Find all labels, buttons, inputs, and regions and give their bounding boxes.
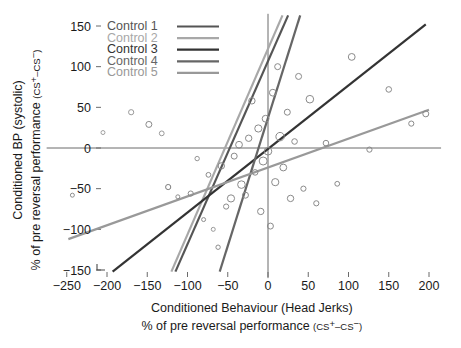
data-point xyxy=(224,204,229,209)
data-point xyxy=(146,121,152,127)
data-point xyxy=(166,184,171,189)
x-tick-label: −50 xyxy=(217,279,238,293)
x-tick-label: −150 xyxy=(133,279,161,293)
scatter-plot-canvas: −250−200−150−100−50050100150200−150−100−… xyxy=(0,0,461,348)
data-point xyxy=(227,195,234,202)
data-point xyxy=(195,156,199,160)
data-point xyxy=(348,54,355,61)
data-point xyxy=(386,87,392,93)
x-tick-label: 100 xyxy=(338,279,359,293)
data-point xyxy=(211,227,215,231)
x-axis-title: Conditioned Behaviour (Head Jerks) xyxy=(151,301,353,315)
legend-layer: Control 1Control 2Control 3Control 4Cont… xyxy=(107,19,219,79)
chart-figure: −250−200−150−100−50050100150200−150−100−… xyxy=(0,0,461,348)
data-point xyxy=(409,121,414,126)
data-point xyxy=(202,218,206,222)
data-point xyxy=(238,181,246,189)
data-point xyxy=(284,109,290,115)
data-point xyxy=(101,131,105,135)
data-point xyxy=(323,140,329,146)
data-point xyxy=(272,179,279,186)
data-point xyxy=(306,95,314,103)
data-point xyxy=(296,73,302,79)
data-point xyxy=(255,125,262,132)
x-tick-label: 0 xyxy=(265,279,272,293)
data-point xyxy=(216,245,220,249)
y-tick-label: −50 xyxy=(70,182,91,196)
regression-line-5 xyxy=(68,110,429,239)
y-tick-label: 50 xyxy=(77,101,91,115)
data-point xyxy=(258,208,264,214)
data-point xyxy=(292,139,298,145)
x-tick-label: 150 xyxy=(378,279,399,293)
data-point xyxy=(301,186,306,191)
data-point xyxy=(287,195,293,201)
data-point xyxy=(335,181,340,186)
x-tick-label: 50 xyxy=(301,279,315,293)
x-tick-label: −200 xyxy=(93,279,121,293)
y-tick-label: −150 xyxy=(63,264,91,278)
y-tick-label: 0 xyxy=(84,142,91,156)
axes-layer xyxy=(47,14,441,278)
data-point xyxy=(129,110,134,115)
data-point xyxy=(280,164,287,171)
x-tick-label: −100 xyxy=(173,279,201,293)
x-axis-subtitle: % of pre reversal performance (CS+–CS−) xyxy=(141,318,362,333)
y-tick-label: 150 xyxy=(70,20,91,34)
y-axis-title: Conditioned BP (systolic) xyxy=(11,80,25,219)
legend-label-5: Control 5 xyxy=(107,65,158,79)
y-axis-subtitle: % of pre reversal performance (CS+–CS−) xyxy=(28,50,43,271)
data-point xyxy=(159,131,164,136)
y-tick-label: 100 xyxy=(70,60,91,74)
x-tick-label: −250 xyxy=(53,279,81,293)
data-point xyxy=(314,201,319,206)
regression-line-2 xyxy=(171,15,282,271)
x-tick-label: 200 xyxy=(419,279,440,293)
data-point xyxy=(259,157,267,165)
data-point xyxy=(231,153,237,159)
data-point xyxy=(245,135,251,141)
data-point xyxy=(176,195,180,199)
data-point xyxy=(236,141,243,148)
data-point xyxy=(275,64,281,70)
axis-corner-bracket xyxy=(97,264,105,270)
data-point xyxy=(206,172,211,177)
y-tick-label: −100 xyxy=(63,223,91,237)
